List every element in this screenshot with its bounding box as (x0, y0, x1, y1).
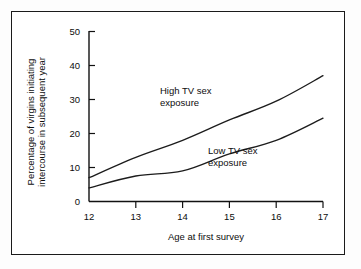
y-tick-label-40: 40 (69, 60, 80, 71)
y-tick-label-0: 0 (75, 196, 80, 207)
series-label-low-line2: exposure (208, 157, 247, 168)
x-axis-title: Age at first survey (168, 231, 244, 242)
x-tick-label-16: 16 (271, 211, 282, 222)
y-tick-label-30: 30 (69, 94, 80, 105)
y-axis-title: Percentage of virgins initiating interco… (25, 57, 47, 187)
y-axis-title-line1: Percentage of virgins initiating (25, 59, 36, 186)
y-tick-label-10: 10 (69, 162, 80, 173)
x-tick-label-13: 13 (131, 211, 142, 222)
x-tick-labels: 12 13 14 15 16 17 (84, 211, 329, 222)
y-tick-label-50: 50 (69, 26, 80, 37)
series-label-high-line1: High TV sex (160, 85, 212, 96)
line-chart: Percentage of virgins initiating interco… (12, 12, 343, 253)
y-tick-label-20: 20 (69, 128, 80, 139)
series-annotation-high: High TV sex exposure (160, 85, 212, 108)
x-tick-label-12: 12 (84, 211, 95, 222)
figure-root: Percentage of virgins initiating interco… (0, 0, 361, 269)
series-label-high-line2: exposure (160, 97, 199, 108)
figure-frame: Percentage of virgins initiating interco… (11, 11, 345, 255)
x-tick-marks (136, 202, 323, 209)
y-tick-marks (89, 32, 95, 168)
y-tick-labels: 50 40 30 20 10 0 (69, 26, 80, 207)
series-label-low-line1: Low TV sex (208, 145, 258, 156)
x-tick-label-17: 17 (318, 211, 329, 222)
x-tick-label-15: 15 (224, 211, 235, 222)
y-axis-title-line2: intercourse in subsequent year (36, 57, 47, 187)
series-annotation-low: Low TV sex exposure (208, 145, 258, 168)
series-line-low-tv-sex-exposure (89, 118, 323, 188)
x-tick-label-14: 14 (177, 211, 188, 222)
